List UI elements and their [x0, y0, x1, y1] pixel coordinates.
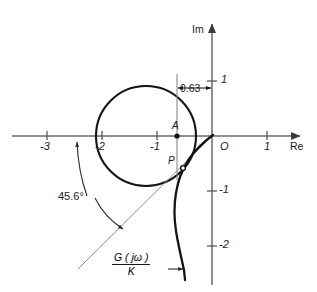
axis-label-im: Im	[192, 23, 204, 35]
angle-leader-to-line	[95, 198, 123, 229]
point-p-label: P	[168, 155, 175, 166]
dimension-label-0p63: 0.63	[180, 82, 200, 94]
tick-label-re-minus2: -2	[95, 140, 105, 152]
point-p-marker	[181, 166, 186, 171]
tick-label-im-minus2: -2	[219, 238, 229, 250]
tick-label-re-origin: O	[220, 140, 229, 152]
angle-label-45p6: 45.6°	[58, 190, 84, 202]
tick-label-im-minus1: -1	[219, 183, 229, 195]
axis-label-re: Re	[290, 140, 303, 152]
point-a-label: A	[172, 120, 179, 131]
axis-ticks-group	[47, 81, 267, 246]
axes-group	[12, 24, 300, 285]
tick-label-re-plus1: 1	[264, 140, 270, 152]
curve-label-gjw-over-k: G ( jω ) K	[112, 252, 150, 278]
tick-label-re-minus1: -1	[150, 140, 160, 152]
gjw-over-k-curve	[175, 135, 214, 280]
tick-label-im-plus1: 1	[221, 73, 227, 85]
curve-label-denominator: K	[112, 266, 150, 278]
tick-label-re-minus3: -3	[40, 140, 50, 152]
curve-label-numerator: G ( jω )	[112, 252, 150, 264]
angle-leader-to-axis	[77, 142, 87, 196]
point-a-marker	[174, 133, 179, 138]
